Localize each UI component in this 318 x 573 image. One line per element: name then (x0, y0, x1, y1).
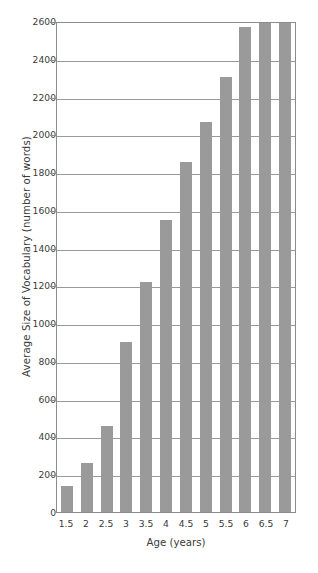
y-tick: 800 (0, 362, 56, 363)
bar (120, 342, 132, 512)
bar-slot (176, 23, 196, 512)
y-tick: 2600 (0, 22, 56, 23)
x-tick-label: 1.5 (56, 518, 76, 532)
x-tick-label: 3 (116, 518, 136, 532)
y-tick: 1200 (0, 286, 56, 287)
y-tick-mark (50, 98, 56, 99)
y-tick: 1800 (0, 173, 56, 174)
y-tick-mark (50, 173, 56, 174)
x-tick-label: 3.5 (136, 518, 156, 532)
bar-slot (57, 23, 77, 512)
x-tick-label: 6.5 (256, 518, 276, 532)
y-tick-mark (50, 135, 56, 136)
bar (101, 426, 113, 512)
y-tick-mark (50, 324, 56, 325)
x-tick-label: 4 (156, 518, 176, 532)
bar-slot (156, 23, 176, 512)
bar (140, 282, 152, 512)
bar (160, 220, 172, 512)
vocabulary-growth-bar-chart: Average Size of Vocabulary (number of wo… (0, 0, 318, 573)
y-tick-mark (50, 437, 56, 438)
y-tick-mark (50, 22, 56, 23)
bar-slot (97, 23, 117, 512)
plot-area (56, 22, 296, 513)
y-tick: 600 (0, 400, 56, 401)
y-tick: 2200 (0, 98, 56, 99)
y-tick-mark (50, 400, 56, 401)
y-tick: 0 (0, 513, 56, 514)
y-tick-label: 0 (10, 508, 56, 517)
y-tick-mark (50, 362, 56, 363)
x-tick-label: 5.5 (216, 518, 236, 532)
x-tick-label: 5 (196, 518, 216, 532)
x-axis-ticks: 1.522.533.544.555.566.57 (56, 518, 296, 532)
y-tick-mark (50, 286, 56, 287)
bar (239, 27, 251, 512)
bar-slot (116, 23, 136, 512)
bar-slot (136, 23, 156, 512)
y-tick: 200 (0, 475, 56, 476)
x-tick-label: 7 (276, 518, 296, 532)
bar-slot (77, 23, 97, 512)
bar-slot (196, 23, 216, 512)
y-tick-mark (50, 475, 56, 476)
bar (81, 463, 93, 512)
y-tick-mark (50, 249, 56, 250)
y-tick: 1400 (0, 249, 56, 250)
bar-slot (235, 23, 255, 512)
x-tick-label: 4.5 (176, 518, 196, 532)
x-tick-label: 6 (236, 518, 256, 532)
bar (180, 162, 192, 512)
bar (220, 77, 232, 512)
x-axis-title: Age (years) (56, 536, 296, 550)
y-tick: 2400 (0, 60, 56, 61)
y-tick: 2000 (0, 135, 56, 136)
bar (259, 22, 271, 512)
bar (61, 486, 73, 512)
bar (279, 22, 291, 512)
y-tick-mark (50, 211, 56, 212)
bars-group (57, 23, 295, 512)
x-tick-label: 2 (76, 518, 96, 532)
bar-slot (255, 23, 275, 512)
y-tick: 400 (0, 437, 56, 438)
x-tick-label: 2.5 (96, 518, 116, 532)
y-tick: 1000 (0, 324, 56, 325)
bar (200, 122, 212, 512)
bar-slot (216, 23, 236, 512)
y-tick-mark (50, 60, 56, 61)
y-tick: 1600 (0, 211, 56, 212)
bar-slot (275, 23, 295, 512)
